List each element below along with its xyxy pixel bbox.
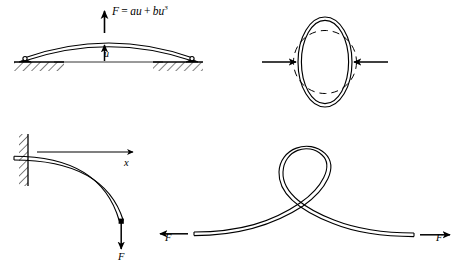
- x-axis-label: x: [124, 158, 129, 169]
- cantilever-rod: [14, 156, 123, 220]
- rod-edge-b: [194, 146, 414, 236]
- ground-hatch-right: [153, 62, 203, 71]
- pin-pivot-right: [190, 57, 194, 61]
- force-label-loop-left: F: [165, 233, 171, 244]
- displacement-label: u: [104, 49, 109, 59]
- pin-pivot-left: [23, 57, 27, 61]
- equation-label: F = au + bu3: [112, 6, 168, 18]
- equation-term2-exponent: 3: [164, 4, 168, 12]
- panel-shallow-arch: [14, 11, 203, 71]
- ground-support-right: [153, 62, 203, 71]
- panel-compressed-ring: [262, 17, 388, 107]
- elastica-rod: [194, 146, 414, 236]
- figure-canvas: [0, 0, 457, 270]
- ground-hatch-left: [14, 62, 64, 71]
- force-label-cantilever: F: [118, 252, 124, 263]
- equation-force-symbol: F: [112, 5, 119, 17]
- rod-edge-a: [194, 149, 414, 233]
- ring-inner-edge: [301, 20, 348, 103]
- ground-support-left: [14, 62, 64, 71]
- undeformed-ring-dashed: [294, 31, 357, 94]
- panel-cantilever-beam: [14, 134, 133, 249]
- panel-elastica-loop: [160, 146, 450, 236]
- beam-lower-edge: [14, 160, 123, 221]
- force-label-loop-right: F: [436, 233, 442, 244]
